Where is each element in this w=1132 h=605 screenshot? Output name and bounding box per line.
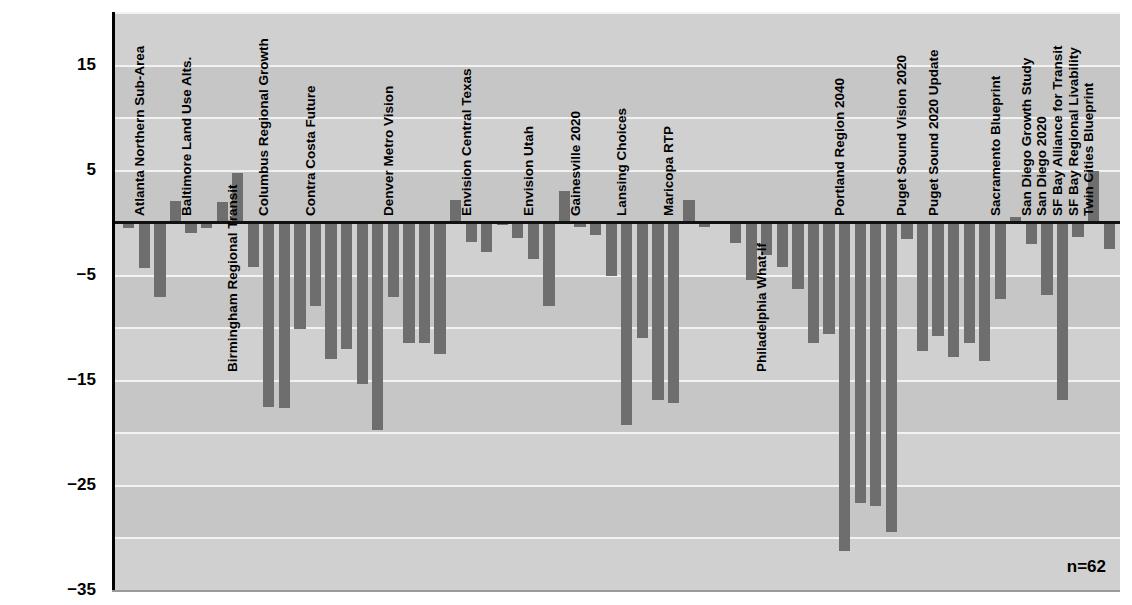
bar: [886, 222, 897, 532]
y-axis-tick-labels: 155−5−15−25−35: [0, 0, 110, 605]
bar: [403, 222, 414, 343]
bottom-rule: [112, 590, 1120, 592]
category-label: Maricopa RTP: [662, 126, 675, 216]
bar: [1072, 222, 1083, 237]
y-tick-15: 15: [77, 55, 96, 75]
category-label: San Diego Growth Study: [1020, 58, 1033, 216]
bar: [263, 222, 274, 407]
bar: [154, 222, 165, 297]
gridline: [115, 537, 1120, 539]
category-label: Denver Metro Vision: [382, 86, 395, 216]
bar: [792, 222, 803, 289]
bar: [279, 222, 290, 408]
y-tick--35: −35: [67, 580, 96, 600]
bar: [652, 222, 663, 400]
bar: [341, 222, 352, 349]
category-label: Sacramento Blueprint: [989, 76, 1002, 216]
bar: [777, 222, 788, 267]
bar: [1041, 222, 1052, 295]
bar: [668, 222, 679, 403]
bar: [870, 222, 881, 506]
bar: [372, 222, 383, 430]
bar: [1026, 222, 1037, 244]
gridline: [115, 12, 1120, 14]
plot-band: [115, 485, 1120, 538]
category-label: Atlanta Northern Sub-Area: [133, 46, 146, 216]
category-label: SF Bay Alliance for Transit: [1051, 46, 1064, 217]
category-label: Puget Sound 2020 Update: [927, 50, 940, 217]
bar: [248, 222, 259, 267]
category-label: Baltimore Land Use Alts.: [180, 57, 193, 216]
bar: [730, 222, 741, 243]
bar: [606, 222, 617, 276]
category-label: Contra Costa Future: [304, 86, 317, 217]
y-tick--15: −15: [67, 370, 96, 390]
gridline: [115, 485, 1120, 487]
bar: [621, 222, 632, 425]
bar: [979, 222, 990, 361]
bar: [1057, 222, 1068, 400]
category-label: Lansing Choices: [615, 108, 628, 216]
bar: [932, 222, 943, 335]
y-tick--25: −25: [67, 475, 96, 495]
bar: [481, 222, 492, 251]
bar: [995, 222, 1006, 299]
bar: [294, 222, 305, 329]
category-label: Birmingham Regional Transit: [226, 185, 239, 373]
bar: [948, 222, 959, 357]
bar: [823, 222, 834, 333]
y-tick--5: −5: [77, 265, 96, 285]
category-label: Envision Utah: [522, 126, 535, 216]
bar: [1104, 222, 1115, 249]
bar: [512, 222, 523, 238]
bar: [357, 222, 368, 384]
bar: [466, 222, 477, 242]
bar: [964, 222, 975, 343]
bar: [683, 200, 694, 222]
sample-size-annotation: n=62: [1067, 557, 1106, 577]
category-label: Twin Cities Blueprint: [1082, 83, 1095, 216]
category-label: Portland Region 2040: [833, 78, 846, 216]
category-label: SF Bay Regional Livability: [1067, 47, 1080, 216]
bar: [808, 222, 819, 343]
bar: [419, 222, 430, 343]
category-label: Columbus Regional Growth: [257, 38, 270, 216]
gridline: [115, 432, 1120, 434]
bar: [139, 222, 150, 268]
bar: [839, 222, 850, 551]
y-tick-5: 5: [87, 160, 96, 180]
bar: [310, 222, 321, 306]
bar: [388, 222, 399, 297]
bar: [637, 222, 648, 338]
category-label: San Diego 2020: [1035, 116, 1048, 216]
zero-baseline: [115, 221, 1120, 224]
bar: [434, 222, 445, 353]
bar: [855, 222, 866, 503]
category-label: Envision Central Texas: [460, 69, 473, 217]
category-label: Puget Sound Vision 2020: [895, 55, 908, 216]
category-label: Philadelphia What-If: [755, 243, 768, 372]
bar: [901, 222, 912, 239]
bar: [543, 222, 554, 306]
bar: [917, 222, 928, 351]
chart-container: Percent VMT Difference versus Trend 155−…: [0, 0, 1132, 605]
bar: [528, 222, 539, 259]
bar: [325, 222, 336, 359]
category-label: Gainesville 2020: [569, 111, 582, 216]
plot-area: Atlanta Northern Sub-AreaBaltimore Land …: [112, 12, 1120, 590]
